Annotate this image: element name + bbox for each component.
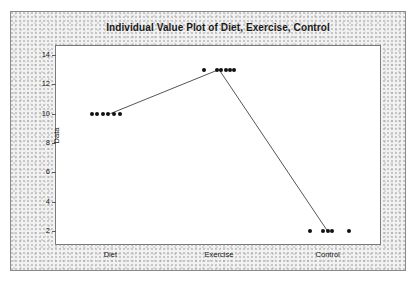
data-point	[101, 112, 105, 116]
y-tick-label: 2	[34, 227, 50, 235]
x-tick-label-control: Control	[288, 250, 368, 259]
data-point	[112, 112, 116, 116]
data-point	[106, 112, 110, 116]
data-point	[232, 68, 236, 72]
y-tick-label: 8	[34, 139, 50, 147]
individual-value-plot-figure: Individual Value Plot of Diet, Exercise,…	[0, 0, 416, 284]
x-tick-label-diet: Diet	[70, 250, 150, 259]
x-tick-label-exercise: Exercise	[179, 250, 259, 259]
y-tick-label: 4	[34, 198, 50, 206]
data-point	[118, 112, 122, 116]
y-tick-label: 12	[34, 80, 50, 88]
chart-title: Individual Value Plot of Diet, Exercise,…	[55, 22, 381, 33]
y-tick-label: 6	[34, 168, 50, 176]
y-tick-label: 10	[34, 110, 50, 118]
plot-area: Data 2468101214 DietExerciseControl	[55, 45, 381, 245]
y-tick-label: 14	[34, 51, 50, 59]
data-point	[224, 68, 228, 72]
data-point	[219, 68, 223, 72]
mean-connector-line	[56, 46, 382, 246]
data-point	[90, 112, 94, 116]
data-point	[202, 68, 206, 72]
data-point	[95, 112, 99, 116]
